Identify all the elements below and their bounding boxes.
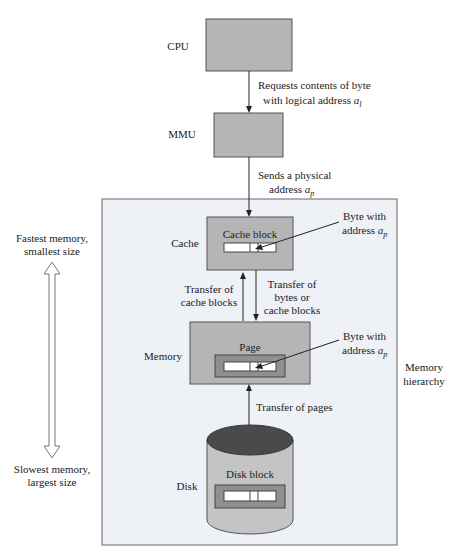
callout-line1: Byte with — [343, 330, 387, 342]
cache-block-slots — [224, 243, 276, 252]
memory-hierarchy-diagram: CPU Requests contents of byte with logic… — [0, 0, 462, 558]
edge-cpu-to-mmu: Requests contents of byte with logical a… — [246, 71, 371, 113]
disk-top — [207, 425, 293, 455]
callout-line1: Byte with — [343, 210, 387, 222]
edge-label-line1: Requests contents of byte — [258, 79, 371, 91]
page-slots — [224, 362, 276, 371]
edge-label-line1: Transfer of — [185, 283, 234, 295]
speed-size-scale: Fastest memory, smallest size Slowest me… — [14, 232, 91, 488]
cache-label: Cache — [171, 237, 199, 249]
disk-block-slots — [224, 491, 276, 501]
arrowhead-icon — [246, 106, 252, 113]
cpu-node: CPU — [167, 19, 292, 71]
page-label: Page — [239, 341, 261, 353]
mmu-box — [214, 113, 283, 157]
mmu-node: MMU — [168, 113, 283, 157]
scale-top-line2: smallest size — [24, 245, 80, 257]
edge-label-line2: with logical address al — [263, 94, 362, 109]
disk-block-label: Disk block — [226, 468, 274, 480]
scale-bottom-line1: Slowest memory, — [14, 463, 91, 475]
edge-label-line1: Transfer of — [268, 278, 317, 290]
memory-label: Memory — [144, 350, 182, 362]
cpu-label: CPU — [167, 40, 188, 52]
edge-label-line2: address ap — [269, 183, 314, 198]
mmu-label: MMU — [168, 128, 196, 140]
disk-label: Disk — [177, 480, 198, 492]
cache-block-label: Cache block — [223, 228, 278, 240]
cpu-box — [206, 19, 292, 71]
edge-label-line2: cache blocks — [181, 296, 238, 308]
edge-label-line3: cache blocks — [264, 304, 321, 316]
hierarchy-label-line1: Memory — [405, 361, 443, 373]
double-headed-hollow-arrow-icon — [44, 262, 60, 458]
edge-label-line2: bytes or — [274, 291, 309, 303]
edge-label-line1: Sends a physical — [258, 169, 331, 181]
scale-bottom-line2: largest size — [28, 476, 77, 488]
hierarchy-label: Memory hierarchy — [403, 361, 445, 387]
edge-label: Transfer of pages — [256, 401, 333, 413]
hierarchy-label-line2: hierarchy — [403, 375, 445, 387]
scale-top-line1: Fastest memory, — [16, 232, 88, 244]
